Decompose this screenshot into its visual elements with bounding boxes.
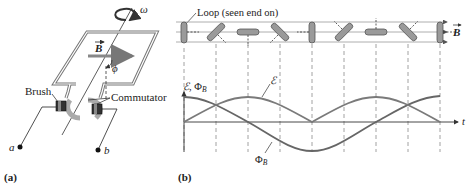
commutator-label: Commutator [111,91,167,103]
y-axis-label: ℰ, ΦB [183,81,207,94]
emf-curve-label: ℰ [270,75,278,86]
vertical-dashed-lines [184,44,440,152]
terminal-b-label: b [104,144,110,156]
loop-end-on [309,22,315,43]
flux-curve-label: ΦB [255,154,268,167]
panel-b-label: (b) [178,171,192,184]
loop-end-on [181,22,187,43]
b-field-label-strip: B [452,26,460,38]
commutator-left [68,100,80,118]
loop-end-on [365,29,387,35]
panel-b-graph: Loop (seen end on) B [176,7,466,184]
terminal-a-label: a [9,141,15,153]
omega-label: ω [140,3,148,15]
generator-figure: ω B ϕ Brush Commutator [0,0,474,185]
brush-label: Brush [25,85,52,97]
loop-end-on [437,22,443,43]
lead-wire-a [20,107,56,147]
terminal-a [18,145,23,150]
panel-a-generator: ω B ϕ Brush Commutator [4,3,167,184]
t-axis-label: t [462,116,466,127]
rotation-arrow-icon [115,9,134,20]
terminal-b [96,148,101,153]
loop-orientations [181,22,443,43]
panel-a-label: (a) [4,171,17,184]
loop-caption: Loop (seen end on) [197,7,279,19]
b-field-label: B [94,42,102,54]
loop-end-on [237,29,259,35]
phi-label: ϕ [112,62,118,74]
